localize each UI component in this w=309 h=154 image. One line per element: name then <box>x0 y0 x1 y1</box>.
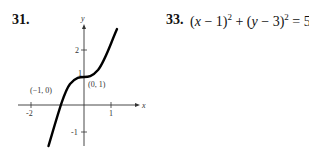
circle-equation: (x − 1)2 + (y − 3)2 = 52 <box>190 12 309 30</box>
eq-term: − 3) <box>258 14 285 29</box>
y-tick-label-2: 2 <box>75 46 79 55</box>
y-axis-arrow-icon <box>82 24 86 29</box>
eq-rhs: = 5 <box>289 14 309 29</box>
eq-term: − 1) <box>201 14 228 29</box>
cubic-curve <box>49 29 118 146</box>
point-label-neg1-0: (−1, 0) <box>30 86 52 95</box>
x-axis-label: x <box>141 101 146 110</box>
eq-plus: + ( <box>232 14 252 29</box>
x-tick-label-1: 1 <box>109 109 113 118</box>
problem-number-33: 33. <box>166 12 184 28</box>
y-axis-label: y <box>80 14 85 23</box>
x-tick-label--2: -2 <box>26 109 33 118</box>
x-axis-arrow-icon <box>135 103 140 107</box>
cubic-graph: x y -2 1 2 1 -1 (−1, 0) (0, 1) <box>0 0 160 154</box>
point-label-0-1: (0, 1) <box>88 80 106 89</box>
y-tick-label--1: -1 <box>71 128 78 137</box>
